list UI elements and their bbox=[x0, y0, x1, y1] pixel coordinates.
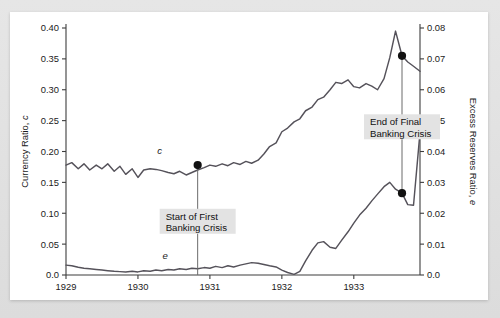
y-axis-left-tick-label: 0.15 bbox=[41, 177, 59, 188]
data-point-marker bbox=[398, 189, 406, 197]
data-point-marker bbox=[194, 161, 202, 169]
y-axis-right-title: Excess Reserves Ratio, e bbox=[468, 98, 479, 205]
curve-label-e: e bbox=[163, 250, 168, 261]
data-point-marker bbox=[398, 52, 406, 60]
y-axis-left-title: Currency Ratio, c bbox=[19, 115, 30, 188]
y-axis-right-tick-label: 0.0 bbox=[427, 269, 440, 280]
y-axis-right-tick-label: 0.06 bbox=[427, 84, 445, 95]
x-axis-tick-label: 1933 bbox=[343, 281, 364, 292]
y-axis-right-tick-label: 0.08 bbox=[427, 22, 445, 33]
y-axis-left-tick-label: 0.35 bbox=[41, 53, 59, 64]
curve-label-c: c bbox=[157, 145, 162, 156]
y-axis-right-tick-label: 0.04 bbox=[427, 146, 445, 157]
y-axis-right-tick-label: 0.02 bbox=[427, 208, 445, 219]
series-line-e bbox=[66, 132, 420, 274]
y-axis-left-tick-label: 0.20 bbox=[41, 146, 59, 157]
y-axis-right-tick-label: 0.03 bbox=[427, 177, 445, 188]
x-axis-tick-label: 1932 bbox=[271, 281, 292, 292]
y-axis-left-tick-label: 0.25 bbox=[41, 115, 59, 126]
chart-card: 0.00.050.100.150.200.250.300.350.400.00.… bbox=[10, 12, 488, 300]
annotation-label-line: End of Final bbox=[370, 116, 421, 127]
chart-plot-area: 0.00.050.100.150.200.250.300.350.400.00.… bbox=[10, 12, 488, 300]
y-axis-left-tick-label: 0.0 bbox=[46, 269, 59, 280]
line-chart-svg: 0.00.050.100.150.200.250.300.350.400.00.… bbox=[10, 12, 488, 300]
x-axis-tick-label: 1929 bbox=[56, 281, 77, 292]
y-axis-left-tick-label: 0.10 bbox=[41, 208, 59, 219]
y-axis-right-tick-label: 0.01 bbox=[427, 239, 445, 250]
annotation-label-line: Banking Crisis bbox=[370, 128, 432, 139]
x-axis-tick-label: 1930 bbox=[128, 281, 149, 292]
annotation-label-line: Start of First bbox=[166, 211, 219, 222]
x-axis-tick-label: 1931 bbox=[199, 281, 220, 292]
y-axis-left-tick-label: 0.40 bbox=[41, 22, 59, 33]
y-axis-right-tick-label: 0.07 bbox=[427, 53, 445, 64]
y-axis-left-tick-label: 0.30 bbox=[41, 84, 59, 95]
y-axis-left-tick-label: 0.05 bbox=[41, 239, 59, 250]
series-line-c bbox=[66, 31, 420, 177]
annotation-label-line: Banking Crisis bbox=[166, 222, 228, 233]
chart-page: 0.00.050.100.150.200.250.300.350.400.00.… bbox=[0, 0, 500, 318]
